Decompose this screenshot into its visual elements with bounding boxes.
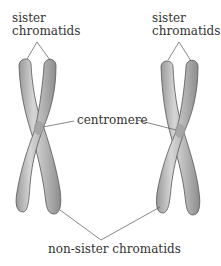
leader-non-sister-right [101, 207, 160, 240]
right-centromere [175, 124, 185, 138]
sister-chromatids-label-left: sister chromatids [12, 12, 80, 38]
centromere-label: centromere [77, 114, 148, 127]
leader-right-sister-a [168, 42, 179, 60]
left-centromere [34, 121, 44, 135]
left-chromosome [16, 59, 61, 214]
leader-right-sister-b [179, 42, 191, 61]
leader-non-sister-left [60, 210, 101, 240]
sister-left-line2: chromatids [12, 25, 80, 38]
right-chromosome [157, 60, 200, 215]
leader-left-sister-a [27, 42, 37, 59]
leader-centromere-left [43, 121, 74, 127]
leader-left-sister-b [37, 42, 50, 60]
chromosome-diagram [0, 0, 221, 266]
sister-chromatids-label-right: sister chromatids [152, 12, 220, 38]
non-sister-chromatids-label: non-sister chromatids [48, 243, 181, 256]
sister-right-line2: chromatids [152, 25, 220, 38]
